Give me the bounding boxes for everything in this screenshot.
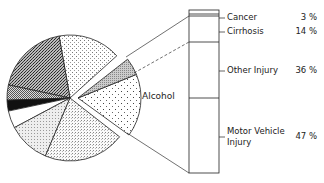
motor-vehicle-label-line1: Motor Vehicle xyxy=(227,127,285,136)
motor-vehicle-label-line2: Injury xyxy=(227,138,251,147)
alcohol-label: Alcohol xyxy=(142,91,175,101)
other-injury-label: Other Injury xyxy=(227,66,278,75)
motor-vehicle-percent: 47 % xyxy=(287,132,317,141)
cancer-label: Cancer xyxy=(227,13,257,22)
cirrhosis-label: Cirrhosis xyxy=(227,27,264,36)
cirrhosis-percent: 14 % xyxy=(287,27,317,36)
cancer-percent: 3 % xyxy=(287,13,317,22)
label-ticks xyxy=(219,18,225,137)
other-injury-percent: 36 % xyxy=(287,66,317,75)
breakdown-bar xyxy=(189,10,219,173)
connector-bottom xyxy=(127,133,189,173)
connector-top xyxy=(126,16,189,57)
